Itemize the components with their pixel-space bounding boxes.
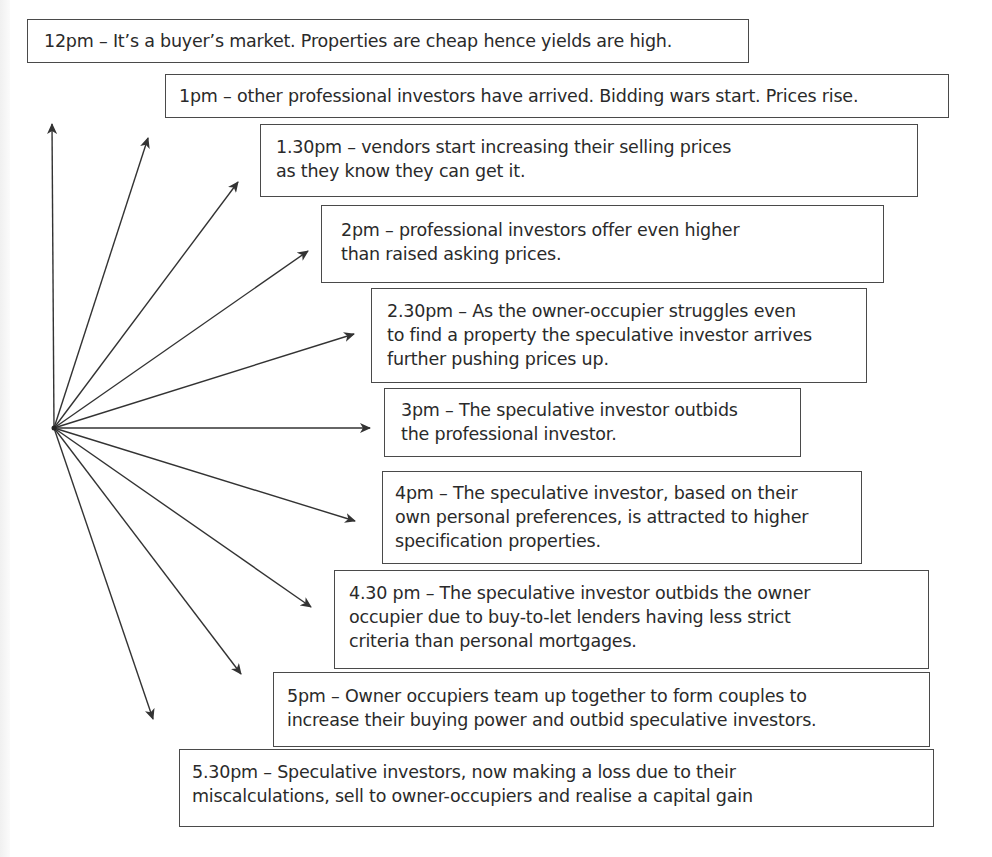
event-box-3pm: 3pm – The speculative investor outbids t… — [384, 388, 801, 457]
event-box-4-30pm: 4.30 pm – The speculative investor outbi… — [334, 570, 929, 669]
arrow-to-1-30pm — [54, 182, 238, 428]
event-box-5pm: 5pm – Owner occupiers team up together t… — [273, 672, 930, 747]
arrow-to-1pm — [54, 138, 148, 428]
arrow-origin-point — [52, 426, 57, 431]
arrow-to-5-30pm — [54, 428, 153, 719]
event-text: 4.30 pm – The speculative investor outbi… — [349, 583, 810, 651]
event-text: 3pm – The speculative investor outbids t… — [401, 400, 738, 444]
event-box-12pm: 12pm – It’s a buyer’s market. Properties… — [27, 19, 749, 63]
event-box-4pm: 4pm – The speculative investor, based on… — [382, 471, 862, 564]
event-text: 1.30pm – vendors start increasing their … — [276, 137, 731, 181]
event-text: 12pm – It’s a buyer’s market. Properties… — [44, 31, 672, 51]
arrow-to-4pm — [54, 428, 355, 521]
event-text: 2.30pm – As the owner-occupier struggles… — [387, 301, 812, 369]
arrow-to-4-30pm — [54, 428, 311, 607]
arrow-to-2-30pm — [54, 334, 354, 428]
event-text: 4pm – The speculative investor, based on… — [395, 483, 808, 551]
arrow-to-12pm — [52, 124, 54, 428]
event-box-1-30pm: 1.30pm – vendors start increasing their … — [260, 124, 918, 197]
event-box-5-30pm: 5.30pm – Speculative investors, now maki… — [179, 749, 934, 827]
event-box-2pm: 2pm – professional investors offer even … — [321, 205, 884, 283]
event-text: 5pm – Owner occupiers team up together t… — [287, 686, 816, 730]
event-box-2-30pm: 2.30pm – As the owner-occupier struggles… — [371, 288, 867, 383]
arrow-to-5pm — [54, 428, 241, 674]
event-text: 1pm – other professional investors have … — [179, 86, 858, 106]
event-box-1pm: 1pm – other professional investors have … — [165, 74, 949, 118]
event-text: 2pm – professional investors offer even … — [341, 220, 739, 264]
arrow-to-2pm — [54, 251, 308, 428]
event-text: 5.30pm – Speculative investors, now maki… — [192, 762, 753, 806]
